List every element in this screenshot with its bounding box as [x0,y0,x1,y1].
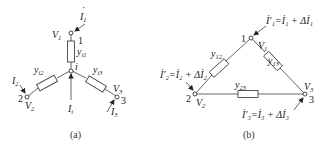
label-admittance-y12: y12 [210,48,223,60]
label-admittance-yi2: yi2 [33,64,44,76]
label-admittance-y23: y23 [234,79,247,91]
label-current-ii: Ii [67,103,73,115]
node-3 [115,95,119,99]
label-node-3: 3 [309,94,314,105]
label-node-3: 3 [121,95,126,106]
caption-b: (b) [243,129,255,141]
label-admittance-yi3: yi3 [92,64,103,76]
node-i [69,69,73,73]
label-voltage-v2: V2 [196,97,206,109]
dot-i1: · [82,2,85,13]
current-arrow-i3-prime [294,98,303,110]
label-current-i3: I3 [110,106,118,118]
current-arrow-i2 [20,85,25,93]
current-arrow-i1-prime [254,26,266,35]
node-2 [25,95,29,99]
label-voltage-v1: V1 [258,40,267,52]
admittance-yi2 [37,75,58,91]
label-current-eq-1: İ′₁=İ₁ + Δİ₁ [265,15,313,26]
label-node-1: 1 [78,35,83,46]
label-voltage-v1: V1 [52,29,61,41]
label-current-eq-2: İ′₂=İ₂ + Δİ₂ [159,69,207,80]
wire-i-3-a [72,71,86,78]
wire-1-2-a [226,39,250,61]
wire-i-2-b [28,88,38,96]
figure-b-delta-network: İ′₁=İ₁ + Δİ₁ 1 V1 y12 y13 y23 İ′₂=İ₂ + Δ… [159,15,314,141]
admittance-yi3 [86,76,107,92]
label-current-i2: I2 [11,75,19,87]
admittance-yi1 [68,41,75,62]
node-3 [303,92,307,96]
label-node-2: 2 [186,93,191,104]
wire-1-3-b [280,68,304,93]
admittance-y12 [209,59,229,78]
label-voltage-v2: V2 [25,100,35,112]
wire-i-2-a [57,71,70,78]
label-admittance-yi1: yi1 [76,46,87,58]
figure-a-star-network: I1 · V1 1 yi1 i yi2 yi3 I2 2 V2 Ii V3 3 … [11,2,126,141]
label-current-eq-3: İ′₃=İ₃ + Δİ₃ [241,109,289,120]
label-voltage-v3: V3 [304,81,314,93]
label-voltage-v3: V3 [113,83,123,95]
admittance-y23 [238,91,258,98]
caption-a: (a) [70,129,81,141]
node-2 [193,92,197,96]
circuit-diagram: I1 · V1 1 yi1 i yi2 yi3 I2 2 V2 Ii V3 3 … [0,0,332,146]
current-arrow-i2-prime [186,82,193,90]
label-node-2: 2 [18,93,23,104]
label-node-i: i [75,61,78,72]
current-arrow-i1 [75,24,85,31]
node-1 [249,36,253,40]
node-1 [69,31,73,35]
label-node-1: 1 [241,33,246,44]
